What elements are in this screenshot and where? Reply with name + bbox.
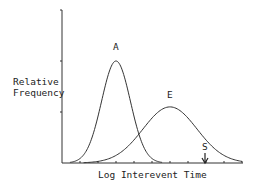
curve-e-label: E xyxy=(167,89,173,100)
y-axis-label-line2: Frequency xyxy=(13,87,64,98)
y-axis-label-line1: Relative xyxy=(13,76,59,87)
relative-frequency-chart: Relative Frequency Log Interevent Time A… xyxy=(0,0,254,183)
curve-a xyxy=(70,61,162,162)
curve-e xyxy=(84,107,242,163)
s-marker-label: S xyxy=(202,141,208,152)
curve-a-label: A xyxy=(113,41,119,52)
s-arrow-icon xyxy=(202,153,208,163)
x-axis-label: Log Interevent Time xyxy=(98,169,207,180)
